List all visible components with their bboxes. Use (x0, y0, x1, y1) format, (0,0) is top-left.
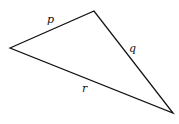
triangle-diagram: p q r (0, 0, 179, 124)
triangle-shape (10, 11, 173, 113)
edge-label-q: q (129, 42, 136, 55)
edge-label-p: p (47, 13, 54, 26)
edge-label-r: r (82, 82, 88, 95)
